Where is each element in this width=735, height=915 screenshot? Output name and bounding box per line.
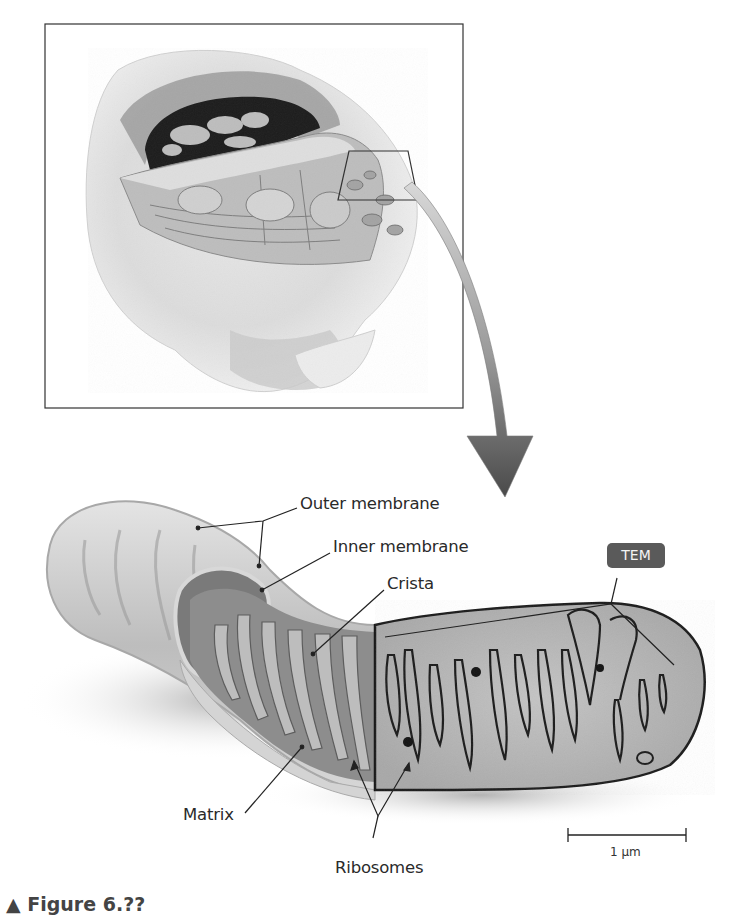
label-outer-membrane: Outer membrane (300, 494, 440, 513)
figure-caption: ▲ Figure 6.?? (6, 893, 145, 915)
label-inner-membrane: Inner membrane (333, 537, 468, 556)
scale-bar (568, 828, 686, 842)
scale-bar-label: 1 µm (610, 845, 641, 859)
label-crista: Crista (387, 574, 434, 593)
label-matrix: Matrix (183, 805, 234, 824)
label-ribosomes: Ribosomes (335, 858, 423, 877)
tem-badge: TEM (607, 543, 665, 568)
cell-inset (45, 24, 463, 408)
